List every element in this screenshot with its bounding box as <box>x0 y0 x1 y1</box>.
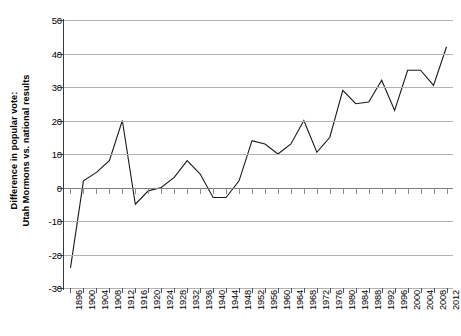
zero-axis-tickmark <box>187 188 188 194</box>
zero-axis-tickmark <box>395 188 396 194</box>
x-tick-label: 1936 <box>204 290 214 310</box>
x-tick-label: 1904 <box>100 290 110 310</box>
y-axis-title-line-2: Utah Mormons vs. national results <box>21 74 33 226</box>
x-tick-label: 1968 <box>308 290 318 310</box>
zero-axis-tickmark <box>226 188 227 194</box>
zero-axis-tickmark <box>83 188 84 194</box>
zero-axis-tickmark <box>200 188 201 194</box>
zero-axis-tickmark <box>265 188 266 194</box>
zero-axis-tickmark <box>239 188 240 194</box>
y-axis-tickmark <box>58 54 64 55</box>
x-tick-label: 1912 <box>126 290 136 310</box>
zero-axis-tickmark <box>382 188 383 194</box>
x-tick-label: 1960 <box>282 290 292 310</box>
x-tick-label: 1956 <box>269 290 279 310</box>
x-tick-label: 1928 <box>178 290 188 310</box>
zero-axis-tickmark <box>148 188 149 194</box>
gridline <box>64 255 453 256</box>
zero-axis-tickmark <box>70 188 71 194</box>
y-axis-tickmark <box>58 188 64 189</box>
zero-axis-tickmark <box>109 188 110 194</box>
x-tick-label: 1920 <box>152 290 162 310</box>
gridline <box>64 154 453 155</box>
x-tick-label: 1976 <box>334 290 344 310</box>
chart-container: Difference in popular vote: Utah Mormons… <box>0 0 461 336</box>
x-tick-label: 1908 <box>113 290 123 310</box>
zero-axis-tickmark <box>317 188 318 194</box>
zero-axis-tickmark <box>291 188 292 194</box>
zero-axis-tickmark <box>434 188 435 194</box>
x-tick-label: 2004 <box>425 290 435 310</box>
y-axis-tickmark <box>58 121 64 122</box>
x-tick-label: 2008 <box>438 290 448 310</box>
zero-axis-tickmark <box>135 188 136 194</box>
y-axis-tickmark <box>58 288 64 289</box>
x-axis-tick-labels: 1896190019041908191219161920192419281932… <box>64 290 453 336</box>
y-axis-tickmark <box>58 87 64 88</box>
zero-axis-tickmark <box>408 188 409 194</box>
x-tick-label: 1924 <box>165 290 175 310</box>
x-tick-label: 1940 <box>217 290 227 310</box>
x-tick-label: 1996 <box>399 290 409 310</box>
gridline <box>64 54 453 55</box>
series-polyline <box>70 47 446 268</box>
gridline <box>64 87 453 88</box>
zero-axis-tickmark <box>447 188 448 194</box>
zero-axis-tickmark <box>421 188 422 194</box>
y-axis-tickmark <box>58 255 64 256</box>
zero-axis-tickmark <box>213 188 214 194</box>
zero-axis-tickmark <box>356 188 357 194</box>
zero-axis-tickmark <box>304 188 305 194</box>
x-tick-label: 1984 <box>360 290 370 310</box>
plot-area <box>64 20 453 288</box>
x-tick-label: 2000 <box>412 290 422 310</box>
zero-axis-tickmark <box>343 188 344 194</box>
zero-axis-tickmark <box>369 188 370 194</box>
x-tick-label: 1964 <box>295 290 305 310</box>
x-tick-label: 1944 <box>230 290 240 310</box>
zero-axis-tickmark <box>174 188 175 194</box>
y-axis-tickmark <box>58 154 64 155</box>
y-axis-tickmark <box>58 221 64 222</box>
zero-axis-tickmark <box>161 188 162 194</box>
x-tick-label: 1988 <box>373 290 383 310</box>
x-tick-label: 1948 <box>243 290 253 310</box>
x-tick-label: 1916 <box>139 290 149 310</box>
zero-axis-tickmark <box>278 188 279 194</box>
zero-axis-tickmark <box>252 188 253 194</box>
zero-axis-tickmark <box>330 188 331 194</box>
zero-axis-tickmark <box>96 188 97 194</box>
x-tick-label: 1972 <box>321 290 331 310</box>
x-tick-label: 1896 <box>74 290 84 310</box>
x-tick-label: 1980 <box>347 290 357 310</box>
x-tick-label: 1932 <box>191 290 201 310</box>
gridline <box>64 121 453 122</box>
y-axis-title-line-1: Difference in popular vote: <box>10 74 22 226</box>
x-tick-label: 1992 <box>386 290 396 310</box>
gridline <box>64 221 453 222</box>
zero-axis-tickmark <box>122 188 123 194</box>
x-tick-label: 1952 <box>256 290 266 310</box>
y-axis-tickmark <box>58 20 64 21</box>
x-tick-label: 2012 <box>451 290 461 310</box>
x-tick-label: 1900 <box>87 290 97 310</box>
gridline <box>64 20 453 21</box>
